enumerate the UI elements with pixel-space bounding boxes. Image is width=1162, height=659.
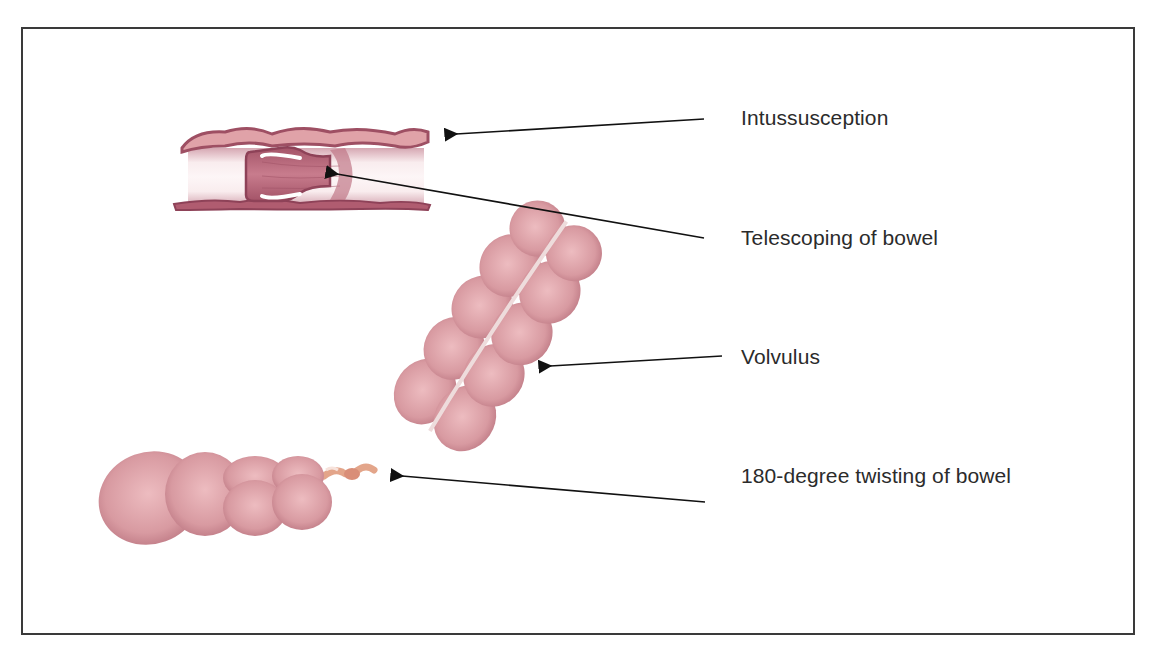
intussusception-illustration bbox=[174, 128, 430, 210]
diagram-canvas bbox=[0, 0, 1162, 659]
label-telescoping-of-bowel: Telescoping of bowel bbox=[741, 223, 938, 253]
lower-colon-illustration bbox=[85, 437, 332, 559]
volvulus-illustration bbox=[381, 187, 616, 463]
label-180-degree-twisting: 180-degree twisting of bowel bbox=[741, 461, 1031, 491]
arrow-volvulus bbox=[550, 356, 722, 366]
label-volvulus: Volvulus bbox=[741, 342, 820, 372]
label-intussusception: Intussusception bbox=[741, 103, 888, 133]
arrow-twisting bbox=[402, 476, 705, 502]
twisted-segment bbox=[324, 467, 374, 480]
arrow-intussusception bbox=[456, 119, 704, 134]
